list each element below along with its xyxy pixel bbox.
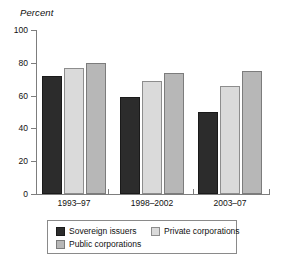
y-axis-tick-label: 60 [2,92,28,100]
x-axis-category-label: 1998–2002 [112,198,192,208]
legend-item-public-corporations: Public corporations [56,240,141,249]
x-axis-line [36,194,270,195]
x-axis-category-label: 2003–07 [190,198,270,208]
axis-title: Percent [20,7,53,18]
bar [42,76,62,194]
legend-label: Public corporations [69,240,141,249]
legend-label: Sovereign issuers [69,227,137,236]
bar [242,71,262,194]
legend-swatch-icon [56,240,65,249]
bar [220,86,240,194]
bar [142,81,162,194]
y-axis-tick-label: 0 [2,190,28,198]
bar-group [120,30,198,194]
bar [120,97,140,194]
bar [164,73,184,194]
legend-swatch-icon [151,227,160,236]
bar [64,68,84,194]
y-axis-tick-label: 80 [2,59,28,67]
legend-label: Private corporations [164,227,240,236]
legend-swatch-icon [56,227,65,236]
legend-item-sovereign-issuers: Sovereign issuers [56,227,137,236]
y-axis-tick-label: 20 [2,157,28,165]
bar [86,63,106,194]
y-axis-tick-label: 100 [2,26,28,34]
bar [198,112,218,194]
bar-group [42,30,120,194]
bar-group [198,30,276,194]
bar-chart: Percent 020406080100 1993–971998–2002200… [0,0,285,261]
y-axis-tick-label: 40 [2,124,28,132]
x-axis-category-label: 1993–97 [34,198,114,208]
plot-area [36,30,268,194]
legend: Sovereign issuers Private corporations P… [47,220,237,254]
legend-item-private-corporations: Private corporations [151,227,240,236]
